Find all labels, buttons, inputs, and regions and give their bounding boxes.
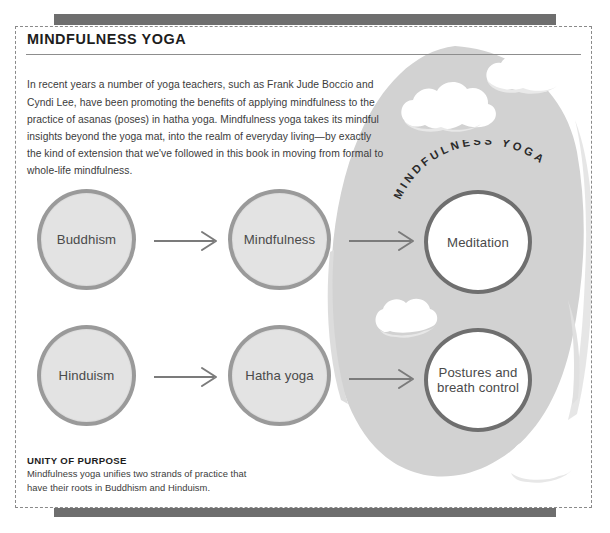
node-label: Hatha yoga bbox=[245, 368, 313, 383]
node-mindfulness[interactable]: Mindfulness bbox=[228, 189, 331, 290]
page-title: MINDFULNESS YOGA bbox=[27, 30, 186, 48]
bottom-rule-bar bbox=[54, 508, 556, 517]
top-rule-bar bbox=[54, 14, 556, 25]
node-label: Mindfulness bbox=[244, 232, 315, 247]
intro-paragraph: In recent years a number of yoga teacher… bbox=[27, 76, 386, 179]
node-buddhism[interactable]: Buddhism bbox=[37, 189, 136, 290]
arrow-mindfulness-to-meditation bbox=[347, 228, 427, 254]
node-hatha-yoga[interactable]: Hatha yoga bbox=[228, 325, 331, 426]
node-meditation[interactable]: Meditation bbox=[424, 190, 532, 294]
node-postures-and-breath-control[interactable]: Postures and breath control bbox=[424, 328, 532, 432]
arrow-buddhism-to-mindfulness bbox=[152, 228, 228, 254]
caption-heading: UNITY OF PURPOSE bbox=[27, 455, 127, 466]
node-hinduism[interactable]: Hinduism bbox=[37, 325, 136, 426]
caption-body: Mindfulness yoga unifies two strands of … bbox=[27, 467, 257, 495]
node-label: Postures and breath control bbox=[424, 365, 532, 395]
arrow-hinduism-to-hathayoga bbox=[152, 364, 228, 390]
figure-page: MINDFULNESS YOGA In recent years a numbe… bbox=[0, 0, 610, 533]
node-label: Buddhism bbox=[57, 232, 116, 247]
title-divider bbox=[26, 54, 581, 55]
arrow-hathayoga-to-postures bbox=[347, 366, 427, 392]
node-label: Meditation bbox=[447, 235, 509, 250]
node-label: Hinduism bbox=[59, 368, 115, 383]
